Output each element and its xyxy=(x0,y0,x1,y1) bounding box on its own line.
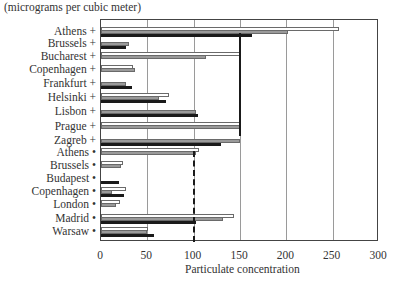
category-label: Athens + xyxy=(54,25,96,37)
category-label: Warsaw • xyxy=(52,225,96,237)
category-label: Frankfurt + xyxy=(43,77,96,89)
category-label: London • xyxy=(53,198,96,210)
bar xyxy=(101,86,132,90)
category-label: Helsinki + xyxy=(48,91,96,103)
bar xyxy=(101,55,206,59)
bar xyxy=(101,114,198,118)
bar xyxy=(101,46,126,50)
x-tick-label: 50 xyxy=(141,249,153,261)
bar xyxy=(101,68,135,72)
gridline xyxy=(333,20,334,240)
x-tick-label: 300 xyxy=(369,249,386,261)
bar xyxy=(101,181,119,185)
category-label: Brussels • xyxy=(50,159,96,171)
category-label: Lisbon + xyxy=(55,105,96,117)
limit-line-150 xyxy=(239,33,241,136)
category-label: Madrid • xyxy=(55,212,96,224)
x-tick-label: 100 xyxy=(184,249,201,261)
x-tick-label: 200 xyxy=(277,249,294,261)
gridline xyxy=(286,20,287,240)
limit-line-100 xyxy=(193,151,195,242)
bar xyxy=(101,194,124,198)
category-label: Zagreb + xyxy=(54,134,96,146)
category-label: Prague + xyxy=(55,120,96,132)
bar xyxy=(101,125,240,129)
category-label: Athens • xyxy=(57,146,96,158)
bar xyxy=(101,151,196,155)
category-label: Bucharest + xyxy=(41,50,96,62)
category-label: Copenhagen • xyxy=(32,185,96,197)
x-tick-label: 0 xyxy=(97,249,103,261)
unit-label: (micrograms per cubic meter) xyxy=(4,1,141,13)
x-axis-label: Particulate concentration xyxy=(185,263,300,275)
category-label: Brussels + xyxy=(48,37,96,49)
bar xyxy=(101,164,121,168)
bar xyxy=(101,143,221,147)
bar xyxy=(101,234,154,238)
plot-area xyxy=(100,19,378,241)
bar xyxy=(101,221,196,225)
x-tick-label: 150 xyxy=(230,249,247,261)
x-tick-label: 250 xyxy=(323,249,340,261)
category-label: Copenhagen + xyxy=(29,63,96,75)
bar xyxy=(101,34,252,38)
category-label: Budapest • xyxy=(46,172,96,184)
bar xyxy=(101,203,116,207)
bar xyxy=(101,100,166,104)
